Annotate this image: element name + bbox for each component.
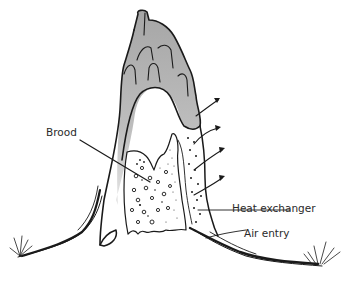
- label-air-entry: Air entry: [244, 227, 290, 239]
- label-heat-exchanger: Heat exchanger: [232, 202, 316, 214]
- brood-chamber: [124, 134, 186, 234]
- label-brood: Brood: [46, 126, 77, 138]
- chimney: [100, 10, 200, 245]
- arrow-icon: [194, 147, 225, 170]
- arrow-icon: [194, 175, 225, 195]
- heat-exchanger-zone: [178, 137, 202, 224]
- arrow-icon: [196, 98, 220, 116]
- termite-mound-diagram: Brood Heat exchanger Air entry: [0, 0, 364, 288]
- ground-roots: [10, 186, 340, 266]
